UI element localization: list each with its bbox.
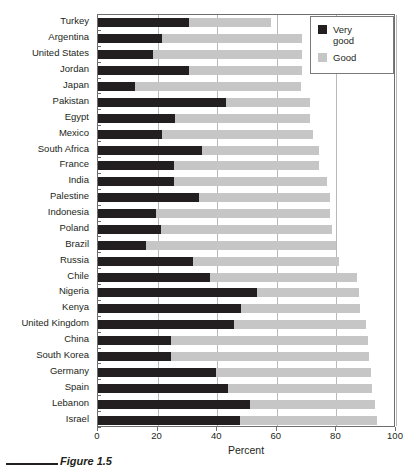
- y-axis-label: Kenya: [62, 302, 89, 312]
- bar-segment-good: [135, 82, 300, 91]
- figure-caption: Figure 1.5: [60, 455, 112, 467]
- y-axis-label: Chile: [67, 271, 89, 281]
- bar-row: [98, 225, 394, 234]
- y-axis-tick: [97, 348, 101, 349]
- y-axis-tick: [97, 316, 101, 317]
- legend-item-good: Good: [318, 52, 356, 63]
- bar-segment-good: [162, 34, 302, 43]
- bar-segment-very-good: [98, 114, 175, 123]
- bar-segment-very-good: [98, 225, 161, 234]
- bar-segment-very-good: [98, 82, 135, 91]
- bar-segment-good: [216, 368, 371, 377]
- bar-row: [98, 257, 394, 266]
- y-axis-label: Germany: [50, 366, 89, 376]
- bar-segment-very-good: [98, 257, 193, 266]
- y-axis-tick: [97, 78, 101, 79]
- y-axis-label: France: [59, 159, 89, 169]
- y-axis-label: Nigeria: [59, 286, 89, 296]
- legend-label-good: Good: [333, 52, 356, 63]
- y-axis-label: Palestine: [50, 191, 89, 201]
- y-axis-label: United States: [32, 48, 89, 58]
- gridline: [396, 15, 397, 426]
- y-axis-tick: [97, 46, 101, 47]
- y-axis-label: Lebanon: [52, 398, 89, 408]
- bar-segment-very-good: [98, 368, 216, 377]
- bar-segment-very-good: [98, 400, 250, 409]
- bar-row: [98, 114, 394, 123]
- y-axis-tick: [97, 300, 101, 301]
- bar-segment-good: [202, 146, 318, 155]
- bar-rows: [98, 15, 394, 426]
- bar-segment-very-good: [98, 384, 228, 393]
- figure-container: TurkeyArgentinaUnited StatesJordanJapanP…: [0, 0, 417, 472]
- y-axis-tick: [97, 252, 101, 253]
- bar-segment-good: [161, 225, 332, 234]
- bar-row: [98, 177, 394, 186]
- bar-segment-good: [257, 288, 358, 297]
- bar-row: [98, 400, 394, 409]
- y-axis-tick: [97, 125, 101, 126]
- y-axis-tick: [97, 379, 101, 380]
- bar-row: [98, 161, 394, 170]
- y-axis-label: South Africa: [38, 144, 89, 154]
- bar-segment-very-good: [98, 66, 189, 75]
- bar-segment-very-good: [98, 130, 162, 139]
- y-axis-label: India: [68, 175, 89, 185]
- bar-row: [98, 193, 394, 202]
- y-axis-label: China: [64, 334, 89, 344]
- y-axis-tick: [97, 62, 101, 63]
- y-axis-tick: [97, 284, 101, 285]
- bar-segment-very-good: [98, 146, 202, 155]
- y-axis-tick: [97, 205, 101, 206]
- y-axis-tick: [97, 109, 101, 110]
- bar-row: [98, 320, 394, 329]
- bar-row: [98, 368, 394, 377]
- plot-area: [97, 14, 395, 427]
- bar-segment-very-good: [98, 336, 171, 345]
- bar-row: [98, 352, 394, 361]
- y-axis-label: Pakistan: [53, 96, 89, 106]
- bar-segment-good: [189, 66, 302, 75]
- bar-segment-very-good: [98, 177, 174, 186]
- x-axis-tick-label: 0: [94, 430, 99, 441]
- bar-row: [98, 98, 394, 107]
- bar-segment-very-good: [98, 416, 240, 425]
- x-axis-tick-label: 20: [151, 430, 162, 441]
- y-axis-label: Russia: [60, 255, 89, 265]
- y-axis-label: Japan: [63, 80, 89, 90]
- bar-segment-good: [210, 273, 358, 282]
- bar-row: [98, 146, 394, 155]
- y-axis-tick: [97, 173, 101, 174]
- bar-segment-very-good: [98, 34, 162, 43]
- y-axis-label: United Kingdom: [21, 318, 89, 328]
- bar-segment-good: [228, 384, 373, 393]
- y-axis-tick: [97, 236, 101, 237]
- x-axis-title: Percent: [97, 444, 395, 456]
- bar-segment-good: [146, 241, 337, 250]
- bar-segment-good: [174, 177, 327, 186]
- legend-swatch-good-icon: [318, 53, 327, 62]
- y-axis-label: Jordan: [60, 64, 89, 74]
- y-axis-tick: [97, 157, 101, 158]
- y-axis-label: Brazil: [65, 239, 89, 249]
- bar-row: [98, 336, 394, 345]
- bar-segment-good: [199, 193, 330, 202]
- bar-row: [98, 288, 394, 297]
- y-axis-tick: [97, 411, 101, 412]
- bar-segment-good: [162, 130, 312, 139]
- bar-segment-very-good: [98, 352, 171, 361]
- bar-segment-good: [156, 209, 330, 218]
- y-axis-label: Egypt: [65, 112, 89, 122]
- y-axis-label: South Korea: [36, 350, 89, 360]
- y-axis-label: Turkey: [60, 16, 89, 26]
- bar-segment-very-good: [98, 209, 156, 218]
- bar-segment-very-good: [98, 50, 153, 59]
- y-axis-label: Poland: [59, 223, 89, 233]
- bar-segment-very-good: [98, 193, 199, 202]
- y-axis-tick: [97, 363, 101, 364]
- bar-segment-good: [171, 352, 369, 361]
- bar-segment-good: [189, 18, 271, 27]
- y-axis-tick: [97, 395, 101, 396]
- y-axis-label: Spain: [65, 382, 89, 392]
- y-axis-label: Mexico: [59, 128, 89, 138]
